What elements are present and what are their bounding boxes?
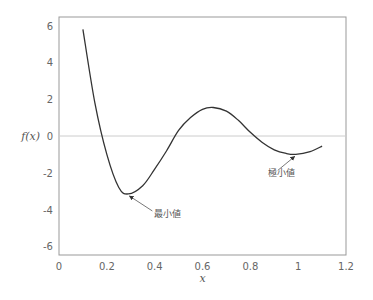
x-axis-ticks: 00.20.40.60.811.2 [56,261,354,272]
y-tick-label: 6 [47,21,53,32]
x-tick-label: 0.4 [147,261,163,272]
x-tick-label: 0 [56,261,62,272]
annotation-label: 最小値 [154,208,181,219]
y-tick-label: 4 [47,57,53,68]
y-tick-label: 2 [47,94,53,105]
annotation-label: 極小値 [268,167,295,178]
x-tick-label: 1.2 [338,261,354,272]
x-tick-label: 0.8 [242,261,258,272]
x-axis-label: x [199,272,206,285]
y-tick-label: -2 [43,168,53,179]
y-axis-label: f(x) [20,130,40,143]
x-tick-label: 0.2 [99,261,115,272]
y-tick-label: -4 [43,205,53,216]
x-tick-label: 1 [295,261,301,272]
y-axis-ticks: 6420-2-4-6 [43,21,53,253]
line-chart: 6420-2-4-6 00.20.40.60.811.2 最小値極小値 x f(… [0,0,373,300]
y-tick-label: -6 [43,241,53,252]
x-tick-label: 0.6 [195,261,211,272]
y-tick-label: 0 [47,131,53,142]
